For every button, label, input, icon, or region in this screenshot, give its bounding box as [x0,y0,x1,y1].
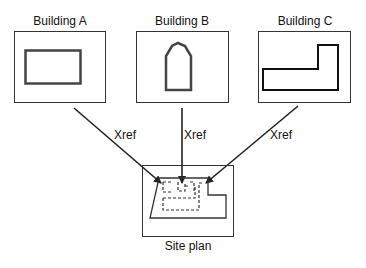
building-b-shape [166,43,191,90]
xref-building-a-footprint [163,182,173,192]
building-c: Building C [259,14,351,103]
building-b: Building B [137,14,229,103]
building-c-shape [263,45,338,90]
site-plan-label: Site plan [165,239,212,253]
building-a-label: Building A [33,14,86,28]
building-c-label: Building C [278,14,333,28]
xref-label-c: Xref [270,128,293,142]
building-c-frame [259,32,351,103]
xref-building-c-footprint [163,183,204,210]
xref-building-b-footprint [178,182,194,192]
xref-label-b: Xref [184,128,207,142]
xref-arrow-c [206,106,298,183]
building-b-frame [137,32,229,103]
xref-label-a: Xref [114,128,137,142]
xref-diagram: Building A Building B Building C Xref Xr… [0,0,366,268]
xref-arrow-a [74,108,161,183]
site-plan-frame [143,166,234,237]
building-b-label: Building B [155,14,209,28]
building-a: Building A [15,14,106,103]
